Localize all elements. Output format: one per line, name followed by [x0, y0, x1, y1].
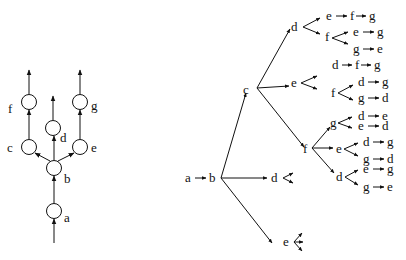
- fork-f-mid-1: [338, 85, 353, 93]
- seq-15-d: d: [336, 169, 343, 184]
- seq-13-g: g: [387, 134, 394, 149]
- tree-label-b: b: [209, 170, 216, 185]
- seq-13-d: d: [363, 134, 370, 149]
- node-f: [22, 95, 37, 110]
- label-f: f: [8, 101, 13, 116]
- fork-d-1: [345, 170, 358, 177]
- seq-17-g: g: [363, 179, 370, 194]
- seq-4-g: g: [353, 41, 360, 56]
- seq-11-d: d: [382, 118, 389, 133]
- label-g: g: [91, 98, 98, 113]
- seq-3-e: e: [353, 24, 359, 39]
- fork-d-upper-1: [303, 18, 320, 27]
- edge-f-d: [312, 148, 334, 173]
- fork-e-1: [344, 143, 358, 149]
- seq-5-f: f: [355, 57, 360, 72]
- node-a: [47, 204, 62, 219]
- fork-d-lower-1: [283, 173, 293, 178]
- fork-e-lower-1: [294, 233, 302, 242]
- edge-f-g: [312, 127, 330, 148]
- seq-2-f: f: [325, 29, 330, 44]
- tree-label-f-mid: f: [303, 141, 308, 156]
- label-e: e: [91, 140, 97, 155]
- fork-e-mid-1: [301, 76, 317, 83]
- fork-g-2: [338, 123, 352, 128]
- fork-e-2: [344, 149, 358, 156]
- tree-label-e-mid: e: [291, 75, 297, 90]
- seq-16-e: e: [363, 161, 369, 176]
- fork-d-upper-2: [303, 27, 320, 34]
- fork-f-1: [332, 32, 348, 38]
- seq-7-d: d: [358, 74, 365, 89]
- seq-4-e: e: [377, 41, 383, 56]
- fork-f-mid-2: [338, 93, 353, 100]
- seq-16-g: g: [387, 161, 394, 176]
- seq-8-g: g: [358, 90, 365, 105]
- fork-e-lower-3: [294, 242, 302, 251]
- left-poset-graph: a b c d e f g: [7, 70, 98, 243]
- seq-11-e: e: [358, 118, 364, 133]
- seq-7-g: g: [382, 74, 389, 89]
- seq-3-g: g: [377, 24, 384, 39]
- right-extension-tree: a b c d e d e f e f g f: [185, 8, 394, 251]
- seq-8-d: d: [382, 90, 389, 105]
- node-e: [73, 140, 88, 155]
- fork-g-1: [338, 117, 352, 123]
- tree-label-d-lower: d: [271, 170, 278, 185]
- edge-b-c: [221, 93, 246, 178]
- seq-6-f: f: [331, 85, 336, 100]
- seq-17-e: e: [387, 179, 393, 194]
- label-b: b: [64, 171, 71, 186]
- node-d: [46, 121, 61, 136]
- tree-label-c: c: [243, 82, 249, 97]
- seq-9-g: g: [330, 115, 337, 130]
- seq-1-e: e: [326, 8, 332, 23]
- edge-b-c: [35, 153, 50, 161]
- label-a: a: [64, 210, 70, 225]
- edge-c-d: [257, 29, 290, 88]
- node-b: [47, 161, 62, 176]
- seq-5-d: d: [332, 57, 339, 72]
- fork-d-2: [345, 177, 358, 185]
- seq-5-g: g: [374, 57, 381, 72]
- node-c: [22, 140, 37, 155]
- edge-c-f: [257, 88, 304, 147]
- label-c: c: [7, 140, 13, 155]
- tree-label-d-upper: d: [291, 19, 298, 34]
- tree-label-a: a: [185, 170, 191, 185]
- seq-12-e: e: [336, 141, 342, 156]
- diagram-canvas: a b c d e f g a b c d e d e f: [0, 0, 406, 260]
- node-g: [73, 95, 88, 110]
- seq-1-g: g: [369, 8, 376, 23]
- seq-1-f: f: [350, 8, 355, 23]
- fork-e-mid-2: [301, 83, 317, 89]
- label-d: d: [60, 130, 67, 145]
- fork-f-2: [332, 38, 348, 44]
- fork-d-lower-2: [283, 178, 293, 183]
- tree-label-e-lower: e: [283, 234, 289, 249]
- edge-c-e: [257, 86, 289, 88]
- edge-b-e: [58, 153, 74, 161]
- edge-b-e: [221, 178, 272, 243]
